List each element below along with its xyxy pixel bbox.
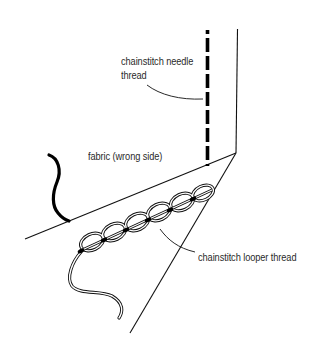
fabric-label: fabric (wrong side) — [88, 149, 162, 163]
needle-thread-label-line1: chainstitch needle — [121, 54, 193, 68]
needle-thread-label-line2: thread — [121, 68, 147, 82]
chainstitch-diagram — [0, 0, 324, 349]
fabric-lower-edge — [130, 153, 236, 333]
fabric-fold-edge — [236, 29, 238, 153]
looper-thread-label: chainstitch looper thread — [198, 250, 296, 264]
looper-thread-chain — [77, 182, 216, 254]
needle-thread-leader — [147, 85, 203, 99]
looper-thread-tail — [70, 252, 122, 318]
fabric-thread-cord — [49, 155, 69, 221]
